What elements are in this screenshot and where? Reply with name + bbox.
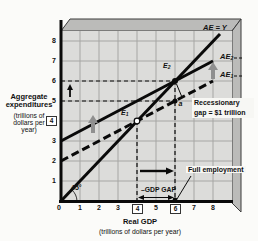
y-axis-units: (trillions of dollars per year) bbox=[7, 112, 51, 133]
x-tick-3: 3 bbox=[113, 204, 123, 211]
y-tick-8: 8 bbox=[40, 37, 56, 44]
ae1-label: AE1 bbox=[220, 71, 233, 79]
x-tick-5: 5 bbox=[151, 204, 161, 211]
y-tick-2: 2 bbox=[40, 157, 56, 164]
e1-base: E bbox=[121, 109, 126, 116]
e2-label: E2 bbox=[163, 62, 170, 69]
e2-base: E bbox=[163, 62, 168, 69]
full-employment-label: Full employment bbox=[186, 166, 246, 173]
ae1-subscript: 1 bbox=[230, 73, 233, 79]
e1-label: E1 bbox=[121, 109, 128, 116]
x-tick-7: 7 bbox=[189, 204, 199, 211]
recessionary-gap-line1: Recessionary bbox=[194, 99, 240, 106]
x-tick-8: 8 bbox=[208, 204, 218, 211]
y-tick-1: 1 bbox=[40, 177, 56, 184]
ae2-label: AE2 bbox=[220, 53, 233, 61]
recessionary-gap-line2: gap = $1 trillion bbox=[194, 109, 246, 116]
ae-equals-y-label: AE = Y bbox=[203, 24, 227, 32]
y-tick-4-boxed: 4 bbox=[46, 116, 57, 126]
ae2-subscript: 2 bbox=[230, 55, 233, 61]
x-tick-1: 1 bbox=[75, 204, 85, 211]
point-a bbox=[173, 99, 178, 104]
e1-subscript: 1 bbox=[126, 111, 129, 117]
y-tick-3: 3 bbox=[40, 137, 56, 144]
y-tick-7: 7 bbox=[40, 57, 56, 64]
y-tick-5: 5 bbox=[40, 97, 56, 104]
x-axis-units: (trillions of dollars per year) bbox=[70, 228, 210, 235]
x-tick-0: 0 bbox=[54, 204, 64, 211]
x-tick-2: 2 bbox=[94, 204, 104, 211]
recessionary-gap-label: Recessionarygap = $1 trillion bbox=[192, 98, 254, 118]
y-tick-6: 6 bbox=[40, 77, 56, 84]
point-e2 bbox=[172, 78, 178, 84]
x-tick-6-boxed: 6 bbox=[170, 204, 181, 214]
figure: Aggregate expenditures (trillions of dol… bbox=[0, 0, 258, 241]
point-e1 bbox=[134, 118, 140, 124]
point-a-label: a bbox=[179, 100, 183, 107]
x-tick-4-boxed: 4 bbox=[132, 204, 143, 214]
point-full-employment bbox=[173, 198, 178, 203]
ae1-base: AE bbox=[220, 70, 230, 79]
angle-label: 45° bbox=[71, 184, 82, 191]
gdp-gap-label: –GDP GAP bbox=[141, 186, 176, 193]
ae2-base: AE bbox=[220, 52, 230, 61]
x-axis-title: Real GDP bbox=[100, 218, 180, 226]
e2-subscript: 2 bbox=[168, 64, 171, 70]
